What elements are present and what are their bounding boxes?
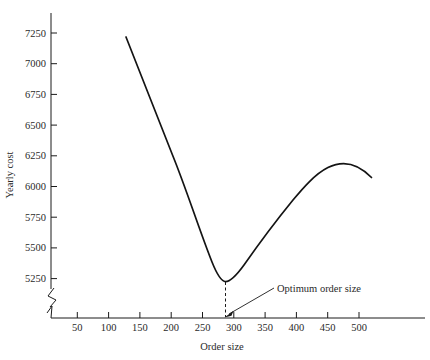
- y-axis-title: Yearly cost: [4, 151, 15, 198]
- y-tick-label: 6500: [25, 120, 46, 131]
- y-tick-label: 6250: [25, 150, 46, 161]
- x-tick-label: 350: [257, 322, 273, 333]
- y-tick-label: 5750: [25, 212, 46, 223]
- eoq-cost-chart: 7250 7000 6750 6500 6250 6000 5750 5500 …: [0, 0, 430, 360]
- chart-page: 7250 7000 6750 6500 6250 6000 5750 5500 …: [0, 0, 430, 360]
- annotation-leader-line: [229, 288, 274, 314]
- x-tick-label: 200: [163, 322, 179, 333]
- y-tick-label: 6750: [25, 89, 46, 100]
- x-tick-group: 50 100 150 200 250 300 350 400 450 500: [72, 312, 367, 333]
- y-tick-label: 5500: [25, 242, 46, 253]
- y-tick-label: 7250: [25, 28, 46, 39]
- x-tick-label: 450: [320, 322, 336, 333]
- x-axis-title: Order size: [200, 341, 244, 352]
- optimum-order-size-label: Optimum order size: [277, 283, 361, 294]
- y-tick-label: 6000: [25, 181, 46, 192]
- x-tick-label: 400: [289, 322, 305, 333]
- y-tick-group: 7250 7000 6750 6500 6250 6000 5750 5500 …: [25, 28, 57, 285]
- x-tick-label: 250: [195, 322, 211, 333]
- x-tick-label: 100: [101, 322, 117, 333]
- y-tick-label: 7000: [25, 58, 46, 69]
- optimum-annotation: Optimum order size: [225, 283, 362, 318]
- yearly-cost-curve: [126, 37, 372, 282]
- x-tick-label: 150: [132, 322, 148, 333]
- x-tick-label: 300: [226, 322, 242, 333]
- x-tick-label: 500: [351, 322, 367, 333]
- x-axis-break-icon: [47, 306, 52, 318]
- axis-group: [47, 13, 425, 318]
- y-axis-break-icon: [48, 288, 56, 307]
- y-tick-label: 5250: [25, 273, 46, 284]
- x-tick-label: 50: [72, 322, 83, 333]
